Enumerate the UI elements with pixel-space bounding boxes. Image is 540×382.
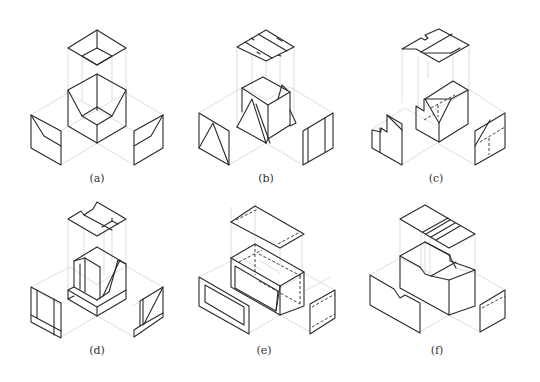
projection-diagram bbox=[0, 0, 540, 382]
panel-f bbox=[370, 205, 505, 333]
panel-c bbox=[371, 29, 505, 165]
panel-label-a: (a) bbox=[89, 172, 104, 185]
panel-label-c: (c) bbox=[429, 172, 444, 185]
panel-b bbox=[199, 30, 333, 165]
panel-label-f: (f) bbox=[431, 344, 444, 357]
panel-a bbox=[31, 30, 163, 165]
panel-label-b: (b) bbox=[258, 172, 274, 185]
panel-label-d: (d) bbox=[89, 344, 105, 357]
panel-d bbox=[31, 202, 163, 338]
panel-label-e: (e) bbox=[256, 344, 271, 357]
panel-e bbox=[199, 204, 335, 334]
